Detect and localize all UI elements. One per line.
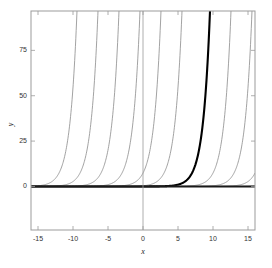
- x-tick-label: -10: [68, 235, 78, 243]
- x-tick-label: 5: [176, 235, 180, 243]
- figure-canvas: -15-10-50510150255075 x y: [0, 0, 272, 268]
- y-axis-title: y: [6, 123, 15, 127]
- y-tick-label: 75: [0, 46, 27, 54]
- y-tick-label: 25: [0, 137, 27, 145]
- x-tick-label: -15: [33, 235, 43, 243]
- y-tick-label: 50: [0, 92, 27, 100]
- x-tick-label: 0: [141, 235, 145, 243]
- x-axis-title: x: [141, 247, 145, 256]
- x-tick-label: 10: [209, 235, 217, 243]
- x-tick-label: 15: [244, 235, 252, 243]
- plot-area: [0, 0, 272, 268]
- x-tick-label: -5: [105, 235, 111, 243]
- y-tick-label: 0: [0, 182, 27, 190]
